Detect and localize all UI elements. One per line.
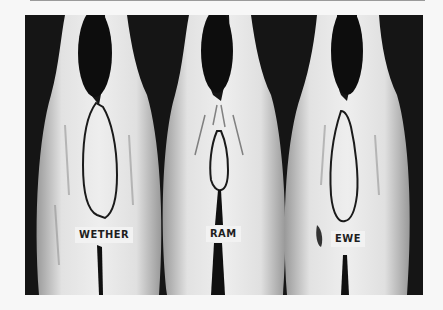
label-ram: RAM — [206, 226, 241, 242]
top-rule — [30, 0, 425, 1]
label-wether: WETHER — [75, 227, 133, 243]
carcass-wether — [37, 15, 162, 295]
carcass-ram — [163, 15, 286, 295]
carcass-photograph: WETHER RAM EWE — [25, 15, 423, 295]
carcass-ewe — [285, 15, 410, 295]
carcass-illustration — [25, 15, 423, 295]
label-ewe: EWE — [331, 231, 365, 247]
